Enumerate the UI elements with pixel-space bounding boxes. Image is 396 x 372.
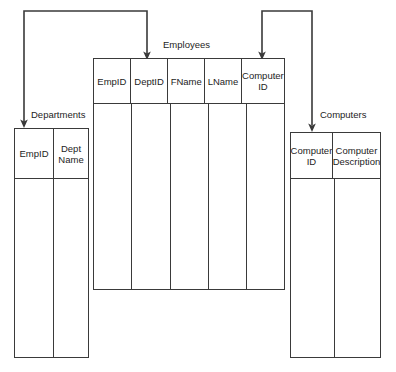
column-header-line: Description [333,156,380,167]
column-header-line: Dept [61,143,81,154]
column-header-line: Computer [336,145,378,156]
column-header-line: Name [58,154,83,165]
column-header-line: FName [171,76,202,87]
column-header-line: EmpID [19,148,48,159]
column-body-employees-computer-id [247,104,284,289]
entity-label-employees: Employees [163,39,210,50]
column-body-computers-computer-id [291,179,335,357]
schema-diagram-canvas: Departments Employees Computers EmpID De… [0,0,396,372]
entity-label-departments: Departments [31,109,85,120]
column-header-employees-lname[interactable]: LName [205,59,242,103]
computers-header-row: Computer ID Computer Description [291,133,380,179]
column-body-departments-dept-name [54,179,88,357]
entity-label-computers: Computers [320,109,366,120]
column-header-line: Computer [291,145,332,156]
column-header-computers-computer-description[interactable]: Computer Description [333,133,380,178]
employees-body-row [94,104,284,289]
entity-table-departments[interactable]: EmpID Dept Name [14,128,89,358]
column-body-departments-empid [15,179,54,357]
column-header-line: DeptID [134,76,164,87]
departments-header-row: EmpID Dept Name [15,129,88,179]
column-header-line: EmpID [97,76,126,87]
column-header-employees-fname[interactable]: FName [168,59,205,103]
column-body-employees-empid [94,104,132,289]
column-header-departments-empid[interactable]: EmpID [15,129,54,178]
column-header-line: ID [258,81,268,92]
column-body-employees-deptid [132,104,171,289]
computers-body-row [291,179,380,357]
column-header-line: ID [307,156,317,167]
column-body-computers-computer-description [335,179,380,357]
column-header-departments-dept-name[interactable]: Dept Name [54,129,88,178]
column-header-employees-computer-id[interactable]: Computer ID [242,59,284,103]
column-body-employees-fname [171,104,209,289]
column-header-employees-empid[interactable]: EmpID [94,59,131,103]
departments-body-row [15,179,88,357]
entity-table-employees[interactable]: EmpID DeptID FName LName Computer ID [93,58,285,290]
column-body-employees-lname [209,104,247,289]
column-header-employees-deptid[interactable]: DeptID [131,59,169,103]
column-header-computers-computer-id[interactable]: Computer ID [291,133,333,178]
column-header-line: Computer [242,70,284,81]
entity-table-computers[interactable]: Computer ID Computer Description [290,132,381,358]
column-header-line: LName [208,76,239,87]
employees-header-row: EmpID DeptID FName LName Computer ID [94,59,284,104]
